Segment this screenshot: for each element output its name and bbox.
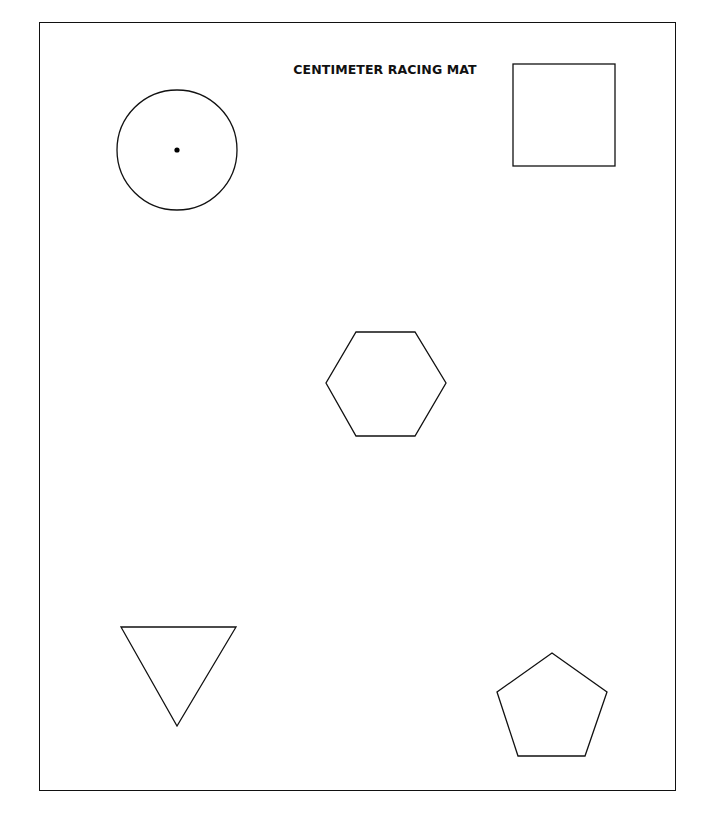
triangle-shape — [121, 627, 236, 726]
shapes-canvas — [0, 0, 702, 827]
pentagon-shape — [497, 653, 607, 756]
hexagon-shape — [326, 332, 446, 436]
square-shape — [513, 64, 615, 166]
circle-center-dot — [174, 147, 179, 152]
